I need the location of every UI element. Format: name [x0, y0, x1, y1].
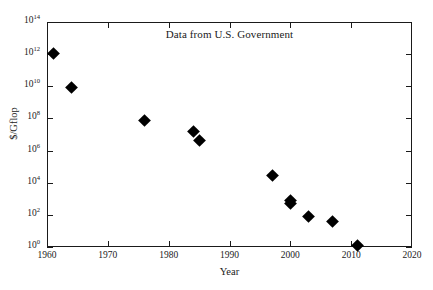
chart-title: Data from U.S. Government [47, 28, 412, 40]
x-tick-mark-top [230, 22, 231, 28]
x-tick-mark-top [169, 22, 170, 28]
x-tick-mark-top [351, 22, 352, 28]
x-tick-label: 1990 [206, 250, 254, 260]
y-tick-mark-right [406, 54, 412, 55]
y-tick-mark-right [406, 151, 412, 152]
x-tick-label: 1970 [84, 250, 132, 260]
x-tick-label: 1980 [145, 250, 193, 260]
x-tick-mark-top [108, 22, 109, 28]
y-tick-mark [47, 247, 53, 248]
y-tick-mark [47, 151, 53, 152]
x-tick-label: 2020 [388, 250, 433, 260]
plot-area [47, 22, 412, 247]
x-tick-mark [169, 241, 170, 247]
x-tick-mark [290, 241, 291, 247]
x-tick-mark [230, 241, 231, 247]
y-tick-label: 102 [0, 209, 40, 219]
y-tick-label: 106 [0, 145, 40, 155]
y-tick-label: 1014 [0, 16, 40, 26]
y-tick-mark [47, 118, 53, 119]
y-tick-label: 1012 [0, 48, 40, 58]
chart-figure: Data from U.S. Government $/Gflop Year 1… [0, 0, 433, 290]
y-tick-mark [47, 22, 53, 23]
y-tick-mark [47, 183, 53, 184]
x-tick-label: 2000 [266, 250, 314, 260]
x-tick-label: 1960 [23, 250, 71, 260]
y-tick-mark-right [406, 247, 412, 248]
y-tick-label: 108 [0, 112, 40, 122]
y-tick-mark-right [406, 22, 412, 23]
y-tick-mark-right [406, 183, 412, 184]
x-tick-mark-top [290, 22, 291, 28]
x-tick-label: 2010 [327, 250, 375, 260]
x-tick-mark [108, 241, 109, 247]
y-tick-mark [47, 86, 53, 87]
y-tick-mark-right [406, 118, 412, 119]
y-tick-mark [47, 215, 53, 216]
x-axis-label: Year [47, 266, 412, 277]
y-tick-label: 104 [0, 177, 40, 187]
y-tick-label: 1010 [0, 80, 40, 90]
y-tick-mark-right [406, 86, 412, 87]
y-tick-mark-right [406, 215, 412, 216]
